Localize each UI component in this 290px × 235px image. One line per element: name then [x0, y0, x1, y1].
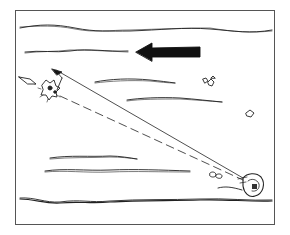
- wave-line-4: [127, 98, 222, 102]
- wave-line-5: [50, 156, 137, 159]
- wave-line-2: [25, 50, 128, 53]
- rock-pair-icon: [210, 172, 222, 178]
- diagram-scene: [0, 0, 290, 235]
- wave-line-1: [20, 25, 272, 32]
- arrow-right-icon: [19, 77, 36, 84]
- wave-line-3: [95, 79, 175, 83]
- rock-icon: [246, 110, 254, 117]
- rock-cluster-icon: [203, 76, 215, 86]
- starburst-object-icon: [38, 80, 60, 102]
- solid-line: [56, 70, 243, 178]
- wave-line-8: [218, 187, 242, 190]
- dashed-line: [60, 96, 243, 180]
- arrow-left-icon: [136, 43, 200, 61]
- wave-line-7: [20, 198, 272, 203]
- wave-line-6: [45, 170, 190, 173]
